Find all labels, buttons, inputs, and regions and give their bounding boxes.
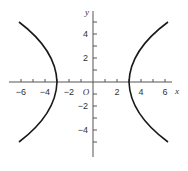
x-tick-label: 6 [162,87,167,97]
x-tick-label: −6 [16,87,26,97]
hyperbola-chart: −6 −4 −2 O 2 4 6 x 4 2 −2 −4 y [0,0,188,171]
x-tick-label: −4 [40,87,50,97]
y-axis-label: y [84,7,89,17]
x-axis-label: x [174,86,179,96]
y-tick-label: −2 [78,101,88,111]
x-tick-label: 4 [138,87,143,97]
x-tick-label: −2 [64,87,74,97]
y-tick-label: −4 [78,125,88,135]
y-tick-label: 4 [83,29,88,39]
x-tick-label: 2 [114,87,119,97]
origin-label: O [83,87,90,97]
y-tick-label: 2 [83,53,88,63]
